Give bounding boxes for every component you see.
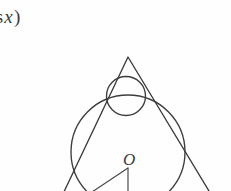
- radius-segment-diagonal: [86, 168, 128, 191]
- figure-page: osx) O: [0, 0, 231, 191]
- triangle-outline: [62, 57, 212, 191]
- circle-center-label: O: [123, 150, 135, 169]
- geometry-figure: O: [0, 0, 231, 191]
